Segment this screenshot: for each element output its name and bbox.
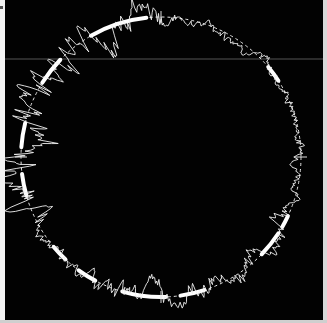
polar-plot bbox=[0, 0, 327, 323]
thick-arc bbox=[282, 216, 288, 227]
thick-arc bbox=[21, 123, 25, 147]
thick-arc bbox=[91, 18, 146, 36]
thick-arc bbox=[122, 292, 165, 297]
photo-frame bbox=[0, 0, 327, 323]
jagged-trace bbox=[0, 0, 304, 308]
